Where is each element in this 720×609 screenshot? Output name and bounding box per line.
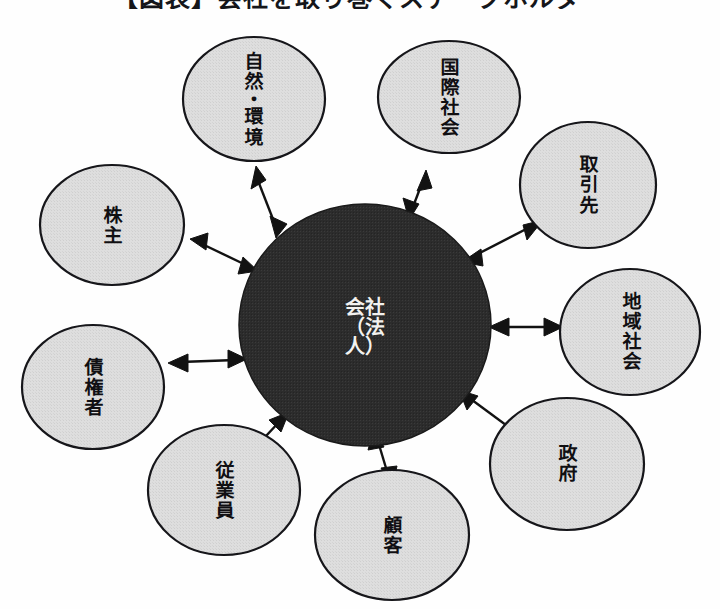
node-shareholders [40,165,184,285]
node-business-partners [520,122,656,248]
node-local-community [560,269,700,395]
diagram-title-strip: 【図表】会社を取り巻くステークホルダー [0,0,720,9]
connector-company-community [489,318,563,336]
node-employees [148,425,300,555]
connector-company-partners [462,220,543,266]
node-international-society [378,41,520,153]
center-node-company [239,204,491,446]
node-creditors [22,325,164,449]
connector-company-shareholders [190,233,258,274]
node-nature-environment [183,37,325,161]
page-title: 【図表】会社を取り巻くステークホルダー [113,0,607,9]
diagram-canvas [0,0,720,609]
node-government [490,398,644,530]
stakeholder-diagram: 【図表】会社を取り巻くステークホルダー [0,0,720,609]
connector-company-creditors [168,350,247,372]
node-customers [315,470,469,600]
connector-company-nature [251,166,287,238]
